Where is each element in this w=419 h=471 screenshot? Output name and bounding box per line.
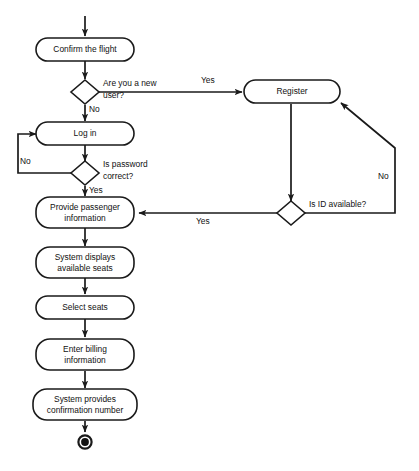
node-enter-billing-information[interactable]: Enter billing information [36,339,134,370]
edge-label-password-no: No [20,156,31,166]
node-display-available-seats[interactable]: System displays available seats [36,247,134,278]
node-provide-passenger-label-line2: information [64,213,106,223]
node-id-available-label: Is ID available? [309,199,367,209]
node-password-correct-label-line1: Is password [103,159,148,169]
edge-id-available-no-to-register [304,103,395,213]
node-display-seats-label-line1: System displays [55,252,116,262]
node-new-user-label-line2: user? [103,90,124,100]
edge-label-id-available-yes: Yes [196,216,210,226]
node-password-correct-decision[interactable] [71,161,99,185]
node-log-in-label: Log in [74,128,97,138]
node-select-seats-label: Select seats [62,302,108,312]
node-enter-billing-label-line1: Enter billing [63,344,107,354]
node-register-label: Register [276,86,307,96]
node-enter-billing-label-line2: information [64,355,106,365]
node-display-seats-label-line2: available seats [57,263,112,273]
node-provide-passenger-information[interactable]: Provide passenger information [36,197,134,228]
node-confirmation-number[interactable]: System provides confirmation number [33,389,137,420]
node-register[interactable]: Register [244,80,340,103]
node-confirm-flight-label: Confirm the flight [53,44,117,54]
flowchart-canvas: Register --> Log in --> back up to Log i… [0,0,419,471]
node-select-seats[interactable]: Select seats [36,296,134,319]
node-log-in[interactable]: Log in [36,122,134,145]
node-final-node[interactable] [78,435,91,448]
node-id-available-decision[interactable] [277,201,305,225]
edge-label-password-yes: Yes [89,185,103,195]
node-confirmation-number-label-line1: System provides [54,394,116,404]
edge-label-id-available-no: No [378,171,389,181]
edge-label-new-user-yes: Yes [201,75,215,85]
node-new-user-decision[interactable] [71,80,99,104]
activity-diagram-svg: Register --> Log in --> back up to Log i… [0,0,419,471]
node-new-user-label-line1: Are you a new [103,78,157,88]
node-confirmation-number-label-line2: confirmation number [47,405,124,415]
node-password-correct-label-line2: correct? [103,171,134,181]
node-provide-passenger-label-line1: Provide passenger [50,202,120,212]
node-confirm-flight[interactable]: Confirm the flight [36,38,134,61]
edge-label-new-user-no: No [89,104,100,114]
